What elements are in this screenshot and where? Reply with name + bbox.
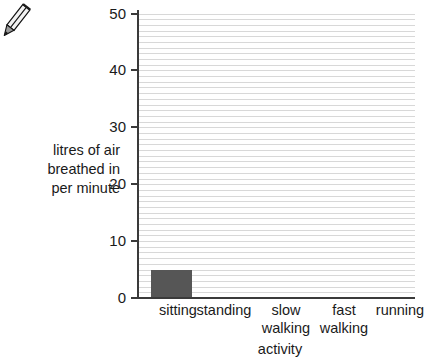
y-axis-tick [131, 183, 139, 185]
category-label-line-1: slow [271, 302, 300, 318]
pencil-icon [2, 2, 38, 42]
gridline [138, 93, 415, 94]
gridline [138, 65, 415, 66]
x-axis-category-label: running [370, 301, 428, 319]
y-axis-tick [131, 69, 139, 71]
gridline [138, 264, 415, 265]
category-label-line-1: running [376, 302, 424, 318]
plot-area [138, 10, 415, 298]
gridline [138, 201, 415, 202]
y-axis-tick-label: 40 [90, 62, 126, 77]
bar [151, 270, 192, 298]
gridline [138, 42, 415, 43]
x-axis-line [131, 297, 415, 299]
y-axis-tick [131, 240, 139, 242]
y-axis-tick [131, 126, 139, 128]
gridline [138, 173, 415, 174]
gridline [138, 247, 415, 248]
category-label-line-1: standing [197, 302, 252, 318]
gridline [138, 87, 415, 88]
gridline [138, 36, 415, 37]
y-axis-line [137, 10, 139, 299]
gridline [138, 110, 415, 111]
gridline [138, 127, 415, 128]
y-axis-tick-label: 10 [90, 233, 126, 248]
y-axis-title-line-1: litres of air [12, 141, 120, 160]
gridline [138, 25, 415, 26]
gridline [138, 139, 415, 140]
gridline [138, 31, 415, 32]
y-axis-tick-label: 50 [90, 6, 126, 21]
y-axis-tick [131, 297, 139, 299]
gridline [138, 82, 415, 83]
gridline [138, 19, 415, 20]
gridline [138, 213, 415, 214]
gridline [138, 252, 415, 253]
y-axis-title: litres of air breathed in per minute [12, 141, 120, 198]
gridline [138, 156, 415, 157]
gridline [138, 150, 415, 151]
y-axis-tick [131, 13, 139, 15]
gridline [138, 53, 415, 54]
gridline [138, 258, 415, 259]
gridline [138, 99, 415, 100]
y-axis-title-line-3: per minute [12, 179, 120, 198]
gridline [138, 59, 415, 60]
gridline [138, 184, 415, 185]
y-axis-tick-label: 0 [90, 290, 126, 305]
gridline [138, 161, 415, 162]
gridline [138, 196, 415, 197]
gridlines [138, 10, 415, 298]
category-label-line-2: walking [314, 319, 374, 337]
category-label-line-1: fast [332, 302, 355, 318]
gridline [138, 144, 415, 145]
category-label-line-2: walking [256, 319, 316, 337]
gridline [138, 105, 415, 106]
x-axis-category-labels: sittingstandingslowwalkingfastwalkingrun… [138, 301, 420, 339]
gridline [138, 14, 415, 15]
gridline [138, 224, 415, 225]
gridline [138, 76, 415, 77]
gridline [138, 70, 415, 71]
x-axis-title: activity [240, 341, 320, 358]
gridline [138, 230, 415, 231]
gridline [138, 48, 415, 49]
x-axis-category-label: standing [194, 301, 254, 319]
gridline [138, 235, 415, 236]
gridline [138, 190, 415, 191]
gridline [138, 241, 415, 242]
gridline [138, 218, 415, 219]
category-label-line-1: sitting [159, 302, 197, 318]
y-axis-title-line-2: breathed in [12, 160, 120, 179]
y-axis-tick-label: 30 [90, 119, 126, 134]
gridline [138, 167, 415, 168]
x-axis-category-label: fastwalking [314, 301, 374, 337]
gridline [138, 207, 415, 208]
gridline [138, 122, 415, 123]
gridline [138, 179, 415, 180]
x-axis-category-label: slowwalking [256, 301, 316, 337]
gridline [138, 116, 415, 117]
gridline [138, 133, 415, 134]
